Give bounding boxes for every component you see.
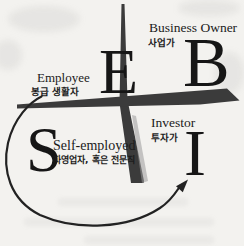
self-employed-korean-label: 자영업자, 혹은 전문직 [53, 156, 135, 165]
employee-label: Employee [37, 71, 90, 84]
business-owner-korean-label: 사업가 [148, 38, 175, 48]
investor-letter: I [184, 120, 206, 186]
employee-korean-label: 봉급 생활자 [31, 87, 79, 97]
self-employed-label: Self-employed [53, 139, 135, 153]
business-owner-letter: B [183, 28, 230, 98]
investor-korean-label: 투자가 [151, 133, 178, 143]
cashflow-quadrant-diagram: Employee 봉급 생활자 E Business Owner 사업가 B S… [0, 0, 244, 246]
employee-letter: E [99, 40, 138, 104]
